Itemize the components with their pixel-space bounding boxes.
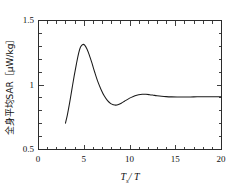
tick-marks-group bbox=[39, 21, 222, 150]
x-tick-labels-group: 05101520 bbox=[36, 154, 226, 164]
y-axis-title-unit: ［μW/kg］ bbox=[5, 35, 15, 82]
plot-frame bbox=[39, 21, 222, 150]
x-axis-title-tail: / T bbox=[128, 171, 141, 182]
svg-text:Ts/ T: Ts/ T bbox=[120, 171, 141, 185]
x-axis-title: Ts/ T bbox=[120, 171, 141, 185]
svg-text:全身平均SAR［μW/kg］: 全身平均SAR［μW/kg］ bbox=[4, 35, 15, 136]
x-tick-label: 15 bbox=[171, 154, 181, 164]
chart-figure: 05101520 0.511.5 Ts/ T 全身平均SAR［μW/kg］ bbox=[0, 0, 237, 189]
x-tick-label: 20 bbox=[217, 154, 227, 164]
y-tick-labels-group: 0.511.5 bbox=[23, 15, 35, 154]
data-series-line bbox=[65, 44, 221, 123]
y-tick-label: 1 bbox=[30, 80, 35, 90]
y-axis-title-text: 全身平均SAR bbox=[4, 81, 15, 135]
x-tick-label: 5 bbox=[82, 154, 87, 164]
y-tick-label: 1.5 bbox=[23, 15, 35, 25]
axis-frame-path bbox=[39, 21, 222, 150]
chart-plot-svg: 05101520 0.511.5 Ts/ T 全身平均SAR［μW/kg］ bbox=[0, 0, 237, 189]
x-tick-label: 0 bbox=[36, 154, 41, 164]
y-axis-title: 全身平均SAR［μW/kg］ bbox=[4, 35, 15, 136]
y-tick-label: 0.5 bbox=[23, 144, 35, 154]
x-tick-label: 10 bbox=[125, 154, 135, 164]
